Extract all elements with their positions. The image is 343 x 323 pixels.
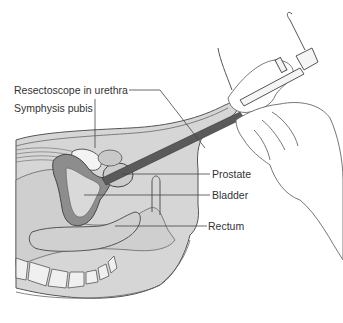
label-bladder: Bladder xyxy=(212,189,248,201)
label-prostate: Prostate xyxy=(212,168,251,180)
label-symphysis-pubis: Symphysis pubis xyxy=(14,102,93,114)
label-resectoscope: Resectoscope in urethra xyxy=(14,84,128,96)
tur-diagram xyxy=(0,0,343,323)
anatomy-illustration xyxy=(0,0,343,323)
surgeon-hands xyxy=(228,60,343,260)
label-rectum: Rectum xyxy=(208,220,244,232)
